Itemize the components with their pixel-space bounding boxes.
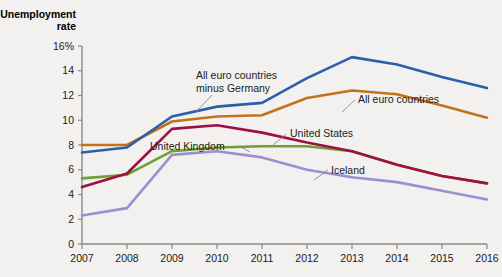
y-tick-label: 0	[68, 238, 74, 250]
x-tick-label: 2014	[385, 252, 409, 264]
y-tick-label: 14	[62, 64, 74, 76]
x-tick-label: 2016	[475, 252, 499, 264]
x-tick-label: 2015	[430, 252, 454, 264]
unemployment-rate-chart: Unemployment rate 0246810121416% 2007200…	[0, 0, 502, 277]
annotation-euro-minus-germany-line2: minus Germany	[196, 82, 271, 94]
y-tick-label: 8	[68, 139, 74, 151]
annotation-united-states: United States	[290, 127, 353, 139]
chart-svg: Unemployment rate 0246810121416% 2007200…	[0, 0, 502, 277]
annotation-iceland: Iceland	[331, 164, 365, 176]
annotation-united-kingdom: United Kingdom	[150, 140, 225, 152]
y-tick-label: 10	[62, 114, 74, 126]
y-tick-label: 12	[62, 89, 74, 101]
annotation-all-euro-countries: All euro countries	[358, 93, 439, 105]
chart-background	[0, 0, 502, 277]
y-axis-title-line2: rate	[57, 20, 76, 32]
annotation-euro-minus-germany-line1: All euro countries	[196, 69, 277, 81]
y-tick-label: 16%	[53, 40, 74, 52]
y-tick-label: 2	[68, 213, 74, 225]
y-axis-title-line1: Unemployment	[0, 8, 76, 20]
y-tick-label: 6	[68, 163, 74, 175]
x-tick-label: 2010	[205, 252, 229, 264]
x-tick-label: 2009	[160, 252, 184, 264]
y-tick-label: 4	[68, 188, 74, 200]
x-tick-label: 2008	[115, 252, 139, 264]
x-tick-label: 2011	[251, 252, 274, 264]
x-tick-label: 2012	[295, 252, 319, 264]
x-tick-label: 2007	[70, 252, 94, 264]
x-tick-label: 2013	[340, 252, 364, 264]
